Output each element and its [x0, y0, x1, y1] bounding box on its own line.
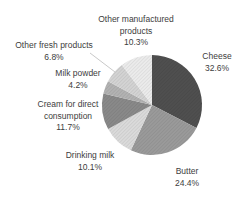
slice-label-text: products [98, 26, 174, 38]
slice-label-milk-powder: Milk powder4.2% [55, 68, 100, 91]
slice-label-text: Cheese [202, 51, 231, 63]
slice-label-text: Drinking milk [66, 150, 115, 162]
slice-percent-value: 10.3% [98, 37, 174, 49]
slice-label-text: Other fresh products [15, 40, 92, 52]
pie-chart-figure: Cheese32.6%Butter24.4%Drinking milk10.1%… [0, 0, 244, 199]
pie-slices-group [102, 55, 202, 155]
slice-label-text: consumption [38, 111, 99, 123]
slice-label-butter: Butter24.4% [175, 166, 199, 189]
slice-percent-value: 24.4% [175, 178, 199, 190]
slice-label-other-manufactured-products: Other manufacturedproducts10.3% [98, 14, 174, 49]
slice-label-cream-for-direct-consumption: Cream for directconsumption11.7% [38, 99, 99, 134]
slice-percent-value: 4.2% [55, 80, 100, 92]
slice-percent-value: 10.1% [66, 162, 115, 174]
slice-percent-value: 32.6% [202, 63, 231, 75]
slice-label-cheese: Cheese32.6% [202, 51, 231, 74]
slice-label-drinking-milk: Drinking milk10.1% [66, 150, 115, 173]
slice-label-other-fresh-products: Other fresh products6.8% [15, 40, 92, 63]
slice-label-text: Other manufactured [98, 14, 174, 26]
slice-label-text: Milk powder [55, 68, 100, 80]
slice-percent-value: 6.8% [15, 52, 92, 64]
slice-label-text: Cream for direct [38, 99, 99, 111]
slice-label-text: Butter [175, 166, 199, 178]
slice-percent-value: 11.7% [38, 122, 99, 134]
